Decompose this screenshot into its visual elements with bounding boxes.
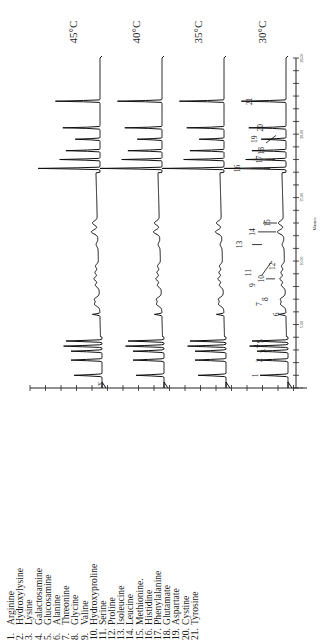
time-axis-label: Minutes bbox=[312, 217, 317, 231]
chromatogram-trace-2 bbox=[100, 56, 168, 388]
peak-label: 7 bbox=[255, 302, 264, 306]
peak-label: 6 bbox=[272, 312, 281, 316]
time-tick-label: 26.00 bbox=[299, 54, 304, 63]
legend-item: 21.Tyrosine bbox=[190, 370, 199, 640]
stray-mark: v bbox=[95, 382, 103, 386]
peak-label: 8 bbox=[261, 297, 270, 301]
chromatogram-trace-3 bbox=[162, 56, 230, 388]
amino-acid-legend: 1.Arginine2.Hydroxylysine3.Lysine4.Galac… bbox=[6, 370, 199, 640]
chromatogram-trace-4 bbox=[224, 56, 292, 388]
time-tick-label: 10.00 bbox=[299, 257, 304, 266]
temp-label-35: 35°C bbox=[192, 21, 204, 44]
legend-item-name: Tyrosine bbox=[189, 592, 200, 625]
peak-label: 9 bbox=[248, 283, 257, 287]
peak-label: 17 bbox=[255, 156, 264, 164]
peak-label: 12 bbox=[268, 262, 277, 270]
peak-label: 21 bbox=[245, 97, 254, 105]
temp-label-40: 40°C bbox=[130, 21, 142, 44]
peak-label: 16 bbox=[233, 164, 242, 172]
peak-label: 19 bbox=[250, 135, 259, 143]
time-tick-label: 0 bbox=[299, 387, 304, 389]
peak-label: 14 bbox=[248, 228, 257, 236]
chromatogram-figure: 05.0010.0015.0020.0026.00Minutes12345678… bbox=[0, 0, 335, 643]
peak-label: 11 bbox=[244, 269, 253, 276]
peak-label: 18 bbox=[257, 147, 266, 155]
peak-label: 10 bbox=[257, 275, 266, 283]
peak-label: 2 bbox=[255, 358, 264, 362]
peak-label: 3 bbox=[259, 349, 268, 353]
legend-item-number: 21. bbox=[190, 625, 199, 640]
time-tick-label: 20.00 bbox=[299, 130, 304, 139]
peak-label: 4 bbox=[252, 344, 261, 348]
time-tick-label: 15.00 bbox=[299, 193, 304, 202]
temp-label-45: 45°C bbox=[67, 21, 79, 44]
peak-label: 13 bbox=[235, 241, 244, 249]
peak-label: 1 bbox=[251, 373, 260, 377]
chromatogram-trace-1 bbox=[38, 56, 106, 388]
time-tick-label: 5.00 bbox=[299, 321, 304, 328]
peak-label: 5 bbox=[256, 339, 265, 343]
temp-label-30: 30°C bbox=[256, 21, 268, 44]
peak-label: 20 bbox=[256, 124, 265, 132]
